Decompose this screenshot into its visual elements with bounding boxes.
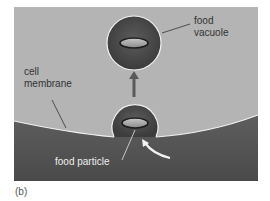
food-particle-label: food particle: [55, 156, 110, 167]
phagocytosis-diagram: food vacuole cell membrane food particle…: [0, 0, 270, 201]
panel-label: (b): [15, 186, 27, 197]
cell-membrane-label-1: cell: [24, 66, 39, 77]
food-vacuole-label-2: vacuole: [194, 27, 229, 38]
food-particle-bottom: [122, 118, 148, 128]
cell-membrane-label-2: membrane: [24, 78, 72, 89]
food-vacuole-label-1: food: [194, 15, 213, 26]
food-particle-top: [120, 38, 148, 48]
arrow-shaft: [133, 78, 136, 97]
